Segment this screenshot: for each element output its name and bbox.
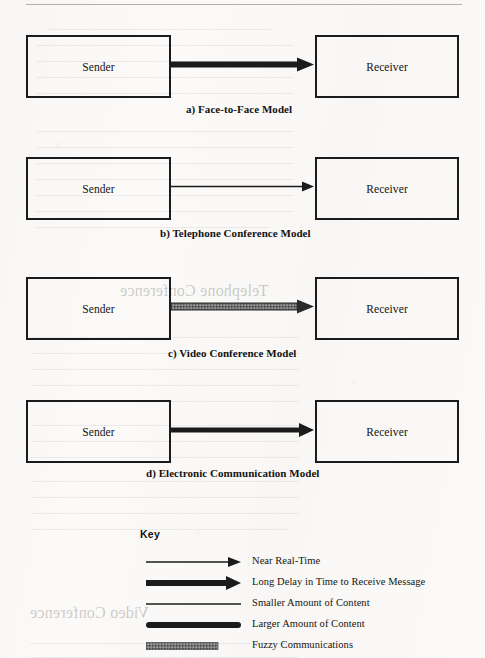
arrow-face-to-face (171, 55, 315, 77)
key-swatch-thick-line (146, 615, 242, 635)
fuzzy-bar-icon (146, 636, 242, 656)
thin-line-icon (146, 594, 242, 614)
thin-arrow-icon (171, 177, 315, 199)
key-row-fuzzy-communications: Fuzzy Communications (0, 636, 485, 656)
thick-arrow-icon (146, 573, 242, 593)
sender-box-electronic: Sender (26, 400, 171, 463)
key-label-long-delay: Long Delay in Time to Receive Message (252, 576, 425, 587)
key-swatch-thick-arrow (146, 573, 242, 593)
key-row-near-real-time: Near Real-Time (0, 552, 485, 572)
key-swatch-thin-arrow (146, 552, 242, 572)
scanned-figure-page: ——————————————————— ————————————————————… (0, 0, 485, 658)
receiver-box-video: Receiver (315, 277, 459, 340)
sender-box-video: Sender (26, 277, 171, 340)
receiver-label: Receiver (366, 61, 408, 73)
sender-label: Sender (82, 183, 115, 195)
fuzzy-arrow-icon (171, 297, 315, 319)
thick-arrow-icon (171, 55, 315, 77)
receiver-label: Receiver (366, 183, 408, 195)
key-label-smaller-content: Smaller Amount of Content (252, 597, 370, 608)
receiver-label: Receiver (366, 426, 408, 438)
arrow-electronic-communication (171, 420, 315, 442)
medium-arrow-icon (171, 420, 315, 442)
sender-box-telephone: Sender (26, 157, 171, 220)
sender-label: Sender (82, 303, 115, 315)
arrow-video-conference (171, 297, 315, 319)
sender-box-face-to-face: Sender (26, 35, 171, 98)
caption-face-to-face: a) Face-to-Face Model (186, 103, 292, 115)
key-label-fuzzy-communications: Fuzzy Communications (252, 639, 353, 650)
caption-video-conference: c) Video Conference Model (168, 347, 296, 359)
key-row-smaller-content: Smaller Amount of Content (0, 594, 485, 614)
thin-arrow-icon (146, 552, 242, 572)
caption-electronic-communication: d) Electronic Communication Model (146, 467, 319, 479)
key-label-near-real-time: Near Real-Time (252, 555, 320, 566)
key-title: Key (0, 528, 300, 540)
receiver-label: Receiver (366, 303, 408, 315)
key-label-larger-content: Larger Amount of Content (252, 618, 365, 629)
key-swatch-fuzzy-bar (146, 636, 242, 656)
receiver-box-telephone: Receiver (315, 157, 459, 220)
receiver-box-electronic: Receiver (315, 400, 459, 463)
key-row-larger-content: Larger Amount of Content (0, 615, 485, 635)
sender-label: Sender (82, 61, 115, 73)
key-row-long-delay: Long Delay in Time to Receive Message (0, 573, 485, 593)
arrow-telephone-conference (171, 177, 315, 199)
caption-telephone-conference: b) Telephone Conference Model (160, 227, 311, 239)
receiver-box-face-to-face: Receiver (315, 35, 459, 98)
thick-line-icon (146, 615, 242, 635)
sender-label: Sender (82, 426, 115, 438)
key-swatch-thin-line (146, 594, 242, 614)
